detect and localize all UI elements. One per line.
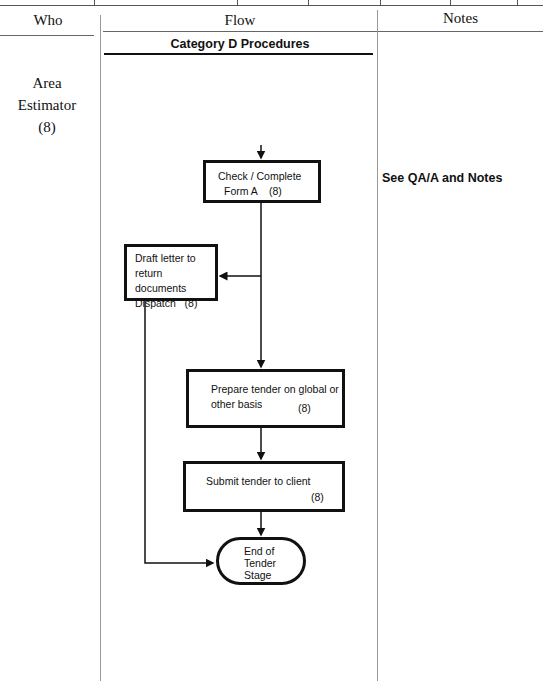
flow-node-end: End of Tender Stage (216, 537, 306, 585)
flow-node-submit-tender: Submit tender to client (8) (183, 461, 345, 512)
node-text: Submit tender to client (206, 474, 342, 489)
node-text: Dispatch (8) (135, 296, 215, 311)
node-text: return documents (135, 266, 215, 296)
node-text: Prepare tender on global or (211, 382, 342, 397)
node-text: Tender (244, 557, 303, 569)
node-ref: (8) (298, 401, 311, 416)
notes-text: See QA/A and Notes (382, 171, 502, 185)
node-ref: (8) (311, 490, 324, 505)
flow-node-draft-letter: Draft letter to return documents Dispatc… (124, 244, 218, 301)
flow-node-prepare-tender: Prepare tender on global or other basis … (186, 369, 345, 428)
flow-node-check-form: Check / Complete Form A (8) (203, 160, 321, 203)
node-text: other basis (211, 398, 262, 410)
node-text: End of (244, 545, 303, 557)
node-text: Stage (244, 569, 303, 581)
node-text: other basis (8) (211, 397, 342, 412)
node-text: Check / Complete (218, 169, 318, 184)
node-text: Form A (8) (218, 184, 318, 199)
node-text: Draft letter to (135, 251, 215, 266)
